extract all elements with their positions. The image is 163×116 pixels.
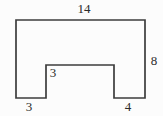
geometry-diagram: 14 8 3 3 4 <box>0 0 163 116</box>
dimension-label-bottom-right-width: 4 <box>122 100 134 114</box>
shape-canvas <box>0 0 163 116</box>
dimension-label-top-width: 14 <box>74 2 94 16</box>
dimension-label-bottom-left-width: 3 <box>23 100 35 114</box>
notched-rectangle-outline <box>16 20 145 98</box>
dimension-label-right-height: 8 <box>148 54 160 68</box>
dimension-label-notch-height: 3 <box>47 66 59 80</box>
